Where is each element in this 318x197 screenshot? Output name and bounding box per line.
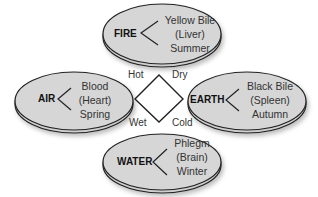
- water-organ: (Brain): [165, 151, 219, 164]
- fire-organ: (Liver): [155, 28, 225, 41]
- air-humor: Blood: [70, 80, 120, 93]
- element-earth: EARTH: [190, 94, 224, 105]
- element-fire: FIRE: [114, 28, 137, 39]
- water-humor: Phlegm: [165, 137, 219, 150]
- label-cold: Cold: [172, 117, 193, 128]
- center-diamond: [135, 75, 183, 122]
- label-wet: Wet: [129, 117, 147, 128]
- earth-organ: (Spleen): [237, 94, 303, 107]
- earth-humor: Black Bile: [237, 80, 303, 93]
- air-organ: (Heart): [70, 94, 120, 107]
- fire-humor: Yellow Bile: [155, 14, 225, 27]
- label-dry: Dry: [172, 69, 188, 80]
- earth-season: Autumn: [237, 108, 303, 121]
- element-air: AIR: [38, 93, 55, 104]
- fire-season: Summer: [155, 42, 225, 55]
- air-season: Spring: [70, 108, 120, 121]
- label-hot: Hot: [128, 69, 144, 80]
- element-water: WATER: [117, 156, 152, 167]
- water-season: Winter: [165, 165, 219, 178]
